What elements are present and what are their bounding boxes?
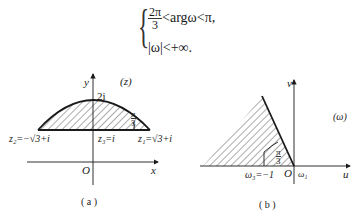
caption-a: ( a ) [81,196,97,207]
z1-label: z₁=√3+i [138,133,172,144]
v-axis-label: v [287,77,292,89]
z2-label: z₂=−√3+i [9,133,50,144]
figure-a [27,74,158,185]
caption-b: ( b ) [259,199,276,210]
angle-den-b: 3 [276,157,281,165]
y-axis-label: y [84,76,89,88]
x-axis-label: x [151,164,156,176]
w3-label: ω₃=−1 [245,169,274,180]
figure-b [200,80,350,184]
u-axis-label: u [343,168,349,180]
figures-canvas [0,0,360,222]
angle-label-b: π 3 [276,148,281,165]
angle-label-a: π 3 [131,110,136,127]
angle-den-a: 3 [131,119,136,127]
z3-label: z₃=i [98,133,115,144]
top-point-label: 2i [97,90,106,102]
origin-label-a: O [82,164,90,176]
w1-label: ω₁ [298,169,307,179]
plane-label-z: (z) [120,75,132,87]
plane-label-w: (ω) [333,111,347,122]
origin-label-b: O [284,167,292,179]
